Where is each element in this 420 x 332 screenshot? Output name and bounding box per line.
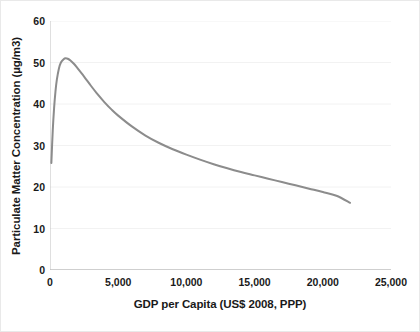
x-tick-label: 20,000 (295, 277, 351, 288)
x-axis-tick-labels: 05,00010,00015,00020,00025,000 (50, 277, 391, 293)
x-tick-label: 5,000 (90, 277, 146, 288)
plot-area (50, 21, 391, 270)
y-tick-label: 40 (19, 99, 45, 110)
y-axis-tick-labels: 0102030405060 (15, 21, 45, 270)
x-tick-label: 10,000 (158, 277, 214, 288)
x-tick-label: 0 (22, 277, 78, 288)
x-tick-label: 25,000 (363, 277, 419, 288)
x-axis-title: GDP per Capita (US$ 2008, PPP) (49, 298, 391, 310)
x-tick-label: 15,000 (227, 277, 283, 288)
y-tick-label: 60 (19, 16, 45, 27)
data-series-line (51, 58, 350, 202)
y-tick-label: 10 (19, 223, 45, 234)
y-tick-label: 30 (19, 140, 45, 151)
y-tick-label: 20 (19, 182, 45, 193)
y-tick-label: 50 (19, 57, 45, 68)
plot-svg (50, 21, 391, 270)
gridlines (50, 21, 391, 270)
chart-figure: Particulate Matter Concentration (µg/m3)… (0, 0, 420, 332)
y-tick-label: 0 (19, 265, 45, 276)
